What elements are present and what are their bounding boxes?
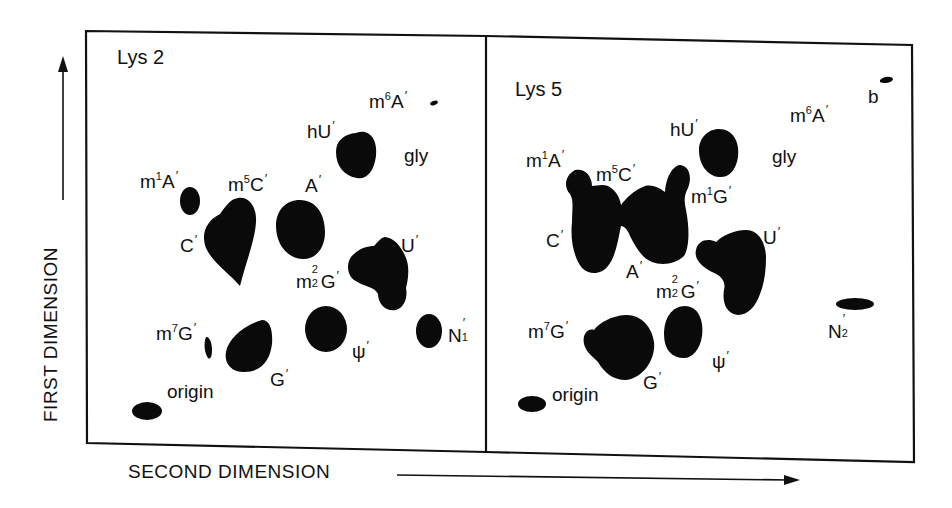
spot-G-m7G-lys5 [584, 315, 655, 380]
chromatogram-graphics [0, 0, 952, 508]
label-psi-lys5: ψ′ [712, 352, 729, 371]
label-m22G-lys2: m22​G′ [296, 272, 339, 291]
label-m1G-lys5: m1G′ [691, 187, 731, 206]
spot-N2 [836, 298, 874, 310]
spot-origin-lys2 [132, 402, 162, 420]
label-m5C-lys5: m5C′ [596, 165, 635, 184]
spot-m1A [180, 187, 200, 215]
label-m1A-lys5: m1A′ [526, 151, 564, 170]
spot-psi-lys5 [664, 306, 702, 358]
label-gly-lys2: gly [404, 146, 428, 165]
label-C-lys5: C′ [546, 231, 563, 250]
spot-hU [336, 132, 376, 179]
label-A-lys2: A′ [305, 176, 321, 195]
spot-U-m22G [348, 237, 408, 310]
label-psi-lys2: ψ′ [352, 342, 369, 361]
second-dimension-arrow-line [397, 475, 788, 480]
label-m22G-lys5: m22​G′ [656, 282, 699, 301]
label-N1-lys2: N′1​ [448, 326, 470, 345]
label-N2-lys5: N′2​ [828, 322, 850, 341]
spot-G [226, 320, 273, 372]
label-U-lys2: U′ [401, 236, 418, 255]
label-G-lys5: G′ [643, 373, 661, 392]
spot-b [880, 77, 893, 83]
lys5-spots [518, 77, 893, 412]
spot-A [276, 200, 325, 259]
label-m7G-lys5: m7G′ [528, 322, 568, 341]
fingerprint-figure: FIRST DIMENSION SECOND DIMENSION Lys 2 L… [0, 0, 952, 508]
axis-label-second-dimension: SECOND DIMENSION [128, 461, 330, 483]
axis-label-first-dimension: FIRST DIMENSION [40, 247, 62, 422]
first-dimension-arrow-head [58, 56, 68, 72]
spot-N1 [416, 314, 442, 348]
label-U-lys5: U′ [763, 228, 780, 247]
panel-title-lys2: Lys 2 [117, 47, 164, 67]
label-m1A-lys2: m1A′ [140, 172, 178, 191]
spot-U-m22G-lys5 [696, 230, 766, 315]
label-C-lys2: C′ [180, 236, 197, 255]
spot-m6A [430, 100, 439, 106]
label-m6A-lys5: m6A′ [790, 106, 828, 125]
label-b-lys5: b [868, 87, 879, 106]
label-origin-lys2: origin [167, 382, 213, 401]
label-hU-lys2: hU′ [307, 122, 335, 141]
second-dimension-arrow-head [784, 475, 800, 485]
spot-hU-lys5 [699, 129, 738, 177]
spot-origin-lys5 [518, 396, 546, 412]
label-gly-lys5: gly [772, 147, 796, 166]
label-m7G-lys2: m7G′ [156, 324, 196, 343]
label-hU-lys5: hU′ [670, 120, 698, 139]
spot-C-m5C [204, 198, 256, 286]
label-m6A-lys2: m6A′ [369, 92, 407, 111]
label-origin-lys5: origin [552, 385, 598, 404]
panel-title-lys5: Lys 5 [515, 79, 562, 99]
label-A-lys5: A′ [626, 262, 642, 281]
label-G-lys2: G′ [270, 370, 288, 389]
spot-psi [305, 306, 347, 352]
label-m5C-lys2: m5C′ [228, 175, 267, 194]
spot-m7G [205, 337, 212, 359]
